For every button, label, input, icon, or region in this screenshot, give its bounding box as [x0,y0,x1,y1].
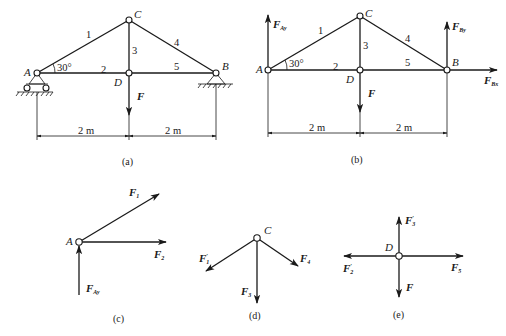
diagram-e-node-d: D F3′ F2′ F5 F (e) [342,214,463,321]
label-b: B [452,56,459,68]
label-d: D [345,73,354,85]
diagram-d-node-c: C F1′ F3 F4 (d) [198,224,310,322]
label-member-5: 5 [405,57,410,68]
node-a [76,239,82,245]
label-a: A [23,66,31,78]
label-d: D [113,76,122,88]
member-1 [37,20,129,73]
node-a [265,67,271,73]
label-member-1: 1 [86,29,91,40]
caption-d: (d) [249,310,261,322]
label-load-f: F [136,90,145,102]
member-4 [360,16,447,70]
dim-label-left: 2 m [309,122,325,133]
force-f1-prime-arrow-icon [206,238,257,271]
label-member-2: 2 [333,61,338,72]
node-c [254,235,260,241]
label-angle: 30° [57,62,72,73]
member-4 [129,20,216,73]
diagram-a-truss: A C D B 1 2 3 4 5 30° F 2 m 2 m (a) [16,8,233,168]
label-f: F [405,281,414,293]
label-member-4: 4 [174,37,180,48]
label-member-4: 4 [405,33,411,44]
node-d [126,70,132,76]
label-f4: F4 [299,252,310,265]
label-fby: FBy [451,20,466,33]
label-load-f: F [367,87,376,99]
truss-diagram-figure: A C D B 1 2 3 4 5 30° F 2 m 2 m (a) [0,0,506,336]
label-c: C [365,7,373,19]
label-member-1: 1 [318,25,323,36]
label-f5: F5 [450,261,461,274]
label-fbx: FBx [483,74,498,87]
label-member-2: 2 [101,64,106,75]
node-a [34,70,40,76]
label-member-3: 3 [363,40,368,51]
label-angle: 30° [289,58,304,69]
caption-b: (b) [351,154,363,166]
dim-label-left: 2 m [78,125,94,136]
caption-a: (a) [122,156,133,168]
roller-support-icon [16,73,53,96]
label-f2-prime: F2′ [342,262,353,275]
node-b [213,70,219,76]
node-c [126,17,132,23]
caption-e: (e) [393,309,404,321]
force-f4-arrow-icon [257,238,298,266]
node-b [444,67,450,73]
dim-label-right: 2 m [165,125,181,136]
angle-arc [53,64,55,73]
label-a: A [255,63,263,75]
label-c: C [134,8,142,20]
force-f1-arrow-icon [79,194,159,242]
label-f3: F3 [240,285,251,298]
label-fay: FAy [85,282,100,295]
caption-c: (c) [113,313,124,325]
label-d: D [384,241,393,253]
label-b: B [222,60,229,72]
label-a: A [65,235,73,247]
label-c: C [264,224,272,236]
label-member-3: 3 [132,45,137,56]
diagram-c-node-a: A F1 F2 FAy (c) [65,186,166,325]
diagram-b-free-body: A C D B 1 2 3 4 5 30° F FAy FBy FBx 2 m … [255,7,498,166]
label-f1: F1 [128,186,139,199]
node-c [357,13,363,19]
label-f1-prime: F1′ [198,252,209,265]
node-d [357,67,363,73]
angle-arc [285,60,287,70]
dim-label-right: 2 m [396,122,412,133]
label-f3-prime: F3′ [404,214,415,227]
label-fay: FAy [272,18,287,31]
node-d [396,253,402,259]
label-f2: F2 [153,248,164,261]
label-member-5: 5 [174,61,179,72]
